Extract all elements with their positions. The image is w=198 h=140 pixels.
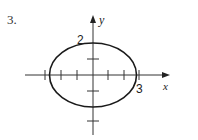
- y-axis-label: y: [98, 13, 105, 27]
- x-intercept-label: 3: [136, 82, 143, 96]
- y-intercept-label: 2: [77, 33, 84, 47]
- x-axis: [25, 72, 170, 78]
- ellipse-graph: y x 2 3: [0, 0, 198, 140]
- y-axis-arrow-icon: [90, 15, 96, 23]
- x-axis-arrow-icon: [162, 72, 170, 78]
- x-axis-label: x: [162, 80, 168, 92]
